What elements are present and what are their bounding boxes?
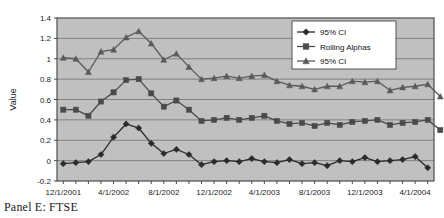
y-tick-label: 1.2 xyxy=(40,34,52,43)
figure-caption: Panel E: FTSE xyxy=(4,200,78,215)
y-tick-label: 0.2 xyxy=(40,136,52,145)
marker-square xyxy=(149,91,154,96)
marker-square xyxy=(186,107,191,112)
marker-square xyxy=(287,121,292,126)
y-tick-label: 1.4 xyxy=(40,14,52,23)
marker-square xyxy=(274,118,279,123)
marker-square xyxy=(161,104,166,109)
marker-square xyxy=(303,44,309,50)
marker-square xyxy=(337,122,342,127)
x-tick-label: 12/1/2002 xyxy=(196,188,232,197)
y-tick-label: 0.6 xyxy=(40,96,52,105)
marker-square xyxy=(111,90,116,95)
marker-square xyxy=(325,120,330,125)
legend-label: Rolling Alphas xyxy=(320,43,371,52)
marker-square xyxy=(425,117,430,122)
x-tick-label: 12/1/2003 xyxy=(347,188,383,197)
marker-square xyxy=(299,120,304,125)
x-tick-label: 12/1/2001 xyxy=(45,188,81,197)
marker-square xyxy=(211,117,216,122)
x-tick-label: 8/1/2002 xyxy=(148,188,180,197)
marker-square xyxy=(438,127,443,132)
x-tick-label: 8/1/2003 xyxy=(299,188,331,197)
marker-square xyxy=(224,115,229,120)
chart-canvas: 1.41.210.80.60.40.20-0.212/1/20014/1/200… xyxy=(0,0,444,218)
marker-square xyxy=(375,117,380,122)
legend: 95% CIRolling Alphas95% CI xyxy=(292,21,396,69)
marker-square xyxy=(136,77,141,82)
x-tick-label: 4/1/2004 xyxy=(400,188,432,197)
marker-square xyxy=(98,99,103,104)
marker-square xyxy=(73,107,78,112)
marker-square xyxy=(350,119,355,124)
marker-square xyxy=(199,118,204,123)
marker-square xyxy=(362,118,367,123)
marker-square xyxy=(262,113,267,118)
marker-square xyxy=(124,78,129,83)
legend-label: 95% CI xyxy=(320,57,346,66)
marker-square xyxy=(312,123,317,128)
marker-square xyxy=(387,122,392,127)
marker-square xyxy=(61,107,66,112)
figure-panel-e: 1.41.210.80.60.40.20-0.212/1/20014/1/200… xyxy=(0,0,444,218)
marker-square xyxy=(413,119,418,124)
y-tick-label: 0.4 xyxy=(40,116,52,125)
y-tick-label: -0.2 xyxy=(37,177,51,186)
marker-square xyxy=(237,117,242,122)
marker-square xyxy=(249,115,254,120)
marker-square xyxy=(86,113,91,118)
legend-label: 95% CI xyxy=(320,28,346,37)
y-tick-label: 0 xyxy=(47,157,52,166)
marker-square xyxy=(174,98,179,103)
x-tick-label: 4/1/2002 xyxy=(98,188,130,197)
y-tick-label: 1 xyxy=(47,55,52,64)
y-axis-title: Value xyxy=(8,88,18,110)
marker-square xyxy=(400,120,405,125)
x-tick-label: 4/1/2003 xyxy=(249,188,281,197)
y-tick-label: 0.8 xyxy=(40,75,52,84)
